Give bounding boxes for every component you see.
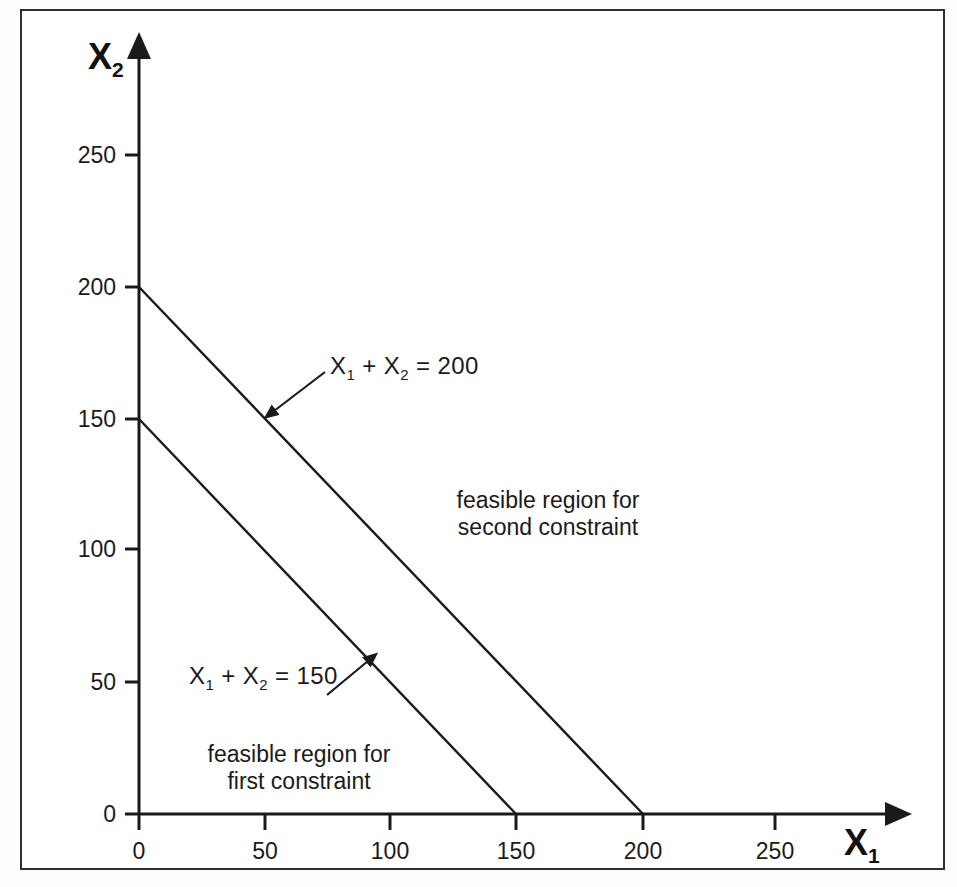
constraint-label-150-plus: + X	[214, 662, 259, 689]
feasible-region-note-second: feasible region forsecond constraint	[457, 487, 640, 541]
constraint-label-200-value: = 200	[409, 352, 479, 379]
x-axis-title-base: X	[844, 822, 868, 863]
y-axis-title: X2	[88, 36, 124, 82]
feasible-region-note-second-line1: feasible region for	[457, 487, 640, 513]
x-axis-title: X1	[844, 822, 880, 868]
feasible-region-note-first-line1: feasible region for	[208, 741, 391, 767]
y-tick-label-200: 200	[58, 274, 116, 301]
y-tick-label-0: 0	[58, 801, 116, 828]
x-tick-label-150: 150	[497, 838, 535, 865]
constraint-label-200-sub1: 1	[346, 366, 355, 383]
x-axis-ticks	[139, 814, 775, 830]
constraint-label-150-sub1: 1	[205, 676, 214, 693]
y-tick-label-100: 100	[58, 536, 116, 563]
constraint-label-150-sub2: 2	[259, 676, 268, 693]
annotation-arrow-200	[274, 372, 325, 411]
y-axis-ticks	[125, 155, 139, 814]
constraint-label-150-value: = 150	[268, 662, 338, 689]
feasible-region-note-first: feasible region forfirst constraint	[208, 741, 391, 795]
y-axis-title-sub: 2	[112, 58, 124, 81]
y-tick-label-150: 150	[58, 406, 116, 433]
x-tick-label-0: 0	[133, 838, 146, 865]
y-tick-label-250: 250	[58, 142, 116, 169]
x-tick-label-50: 50	[252, 838, 278, 865]
x-tick-label-200: 200	[624, 838, 662, 865]
x-tick-label-100: 100	[371, 838, 409, 865]
feasible-region-note-first-line2: first constraint	[227, 768, 370, 794]
linear-programming-feasible-region-figure: 0 50 100 150 200 250 0 50 100 150 200 25…	[0, 0, 957, 887]
constraint-label-200: X1 + X2 = 200	[330, 352, 479, 383]
y-tick-label-50: 50	[58, 669, 116, 696]
constraint-label-150: X1 + X2 = 150	[189, 662, 338, 693]
constraint-label-150-x1: X	[189, 662, 205, 689]
x-axis-title-sub: 1	[868, 844, 880, 867]
plot-canvas	[0, 0, 957, 887]
y-axis-title-base: X	[88, 36, 112, 77]
constraint-label-200-x1: X	[330, 352, 346, 379]
x-tick-label-250: 250	[756, 838, 794, 865]
feasible-region-note-second-line2: second constraint	[458, 514, 638, 540]
constraint-label-200-plus: + X	[355, 352, 400, 379]
constraint-label-200-sub2: 2	[400, 366, 409, 383]
